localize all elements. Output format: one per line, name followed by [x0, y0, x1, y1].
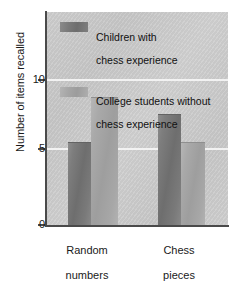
y-tick-label-10: 10: [15, 74, 45, 85]
x-tick-label-chess-pieces-line2: pieces: [140, 269, 218, 282]
bar-college-chess-pieces: [181, 142, 205, 225]
legend-label-college-line1: College students without: [96, 96, 210, 108]
legend-label-college-line2: chess experience: [96, 119, 210, 131]
y-tick-label-5: 5: [15, 143, 45, 154]
y-axis-line: [45, 11, 47, 226]
x-tick-label-random-numbers-line2: numbers: [48, 269, 126, 282]
x-tick-label-chess-pieces-line1: Chess: [140, 244, 218, 257]
bar-children-random-numbers: [68, 142, 91, 225]
legend-label-children: Children with chess experience: [96, 20, 178, 78]
legend-label-children-line1: Children with: [96, 32, 178, 44]
y-tick-label-0: 0: [15, 219, 45, 230]
legend-swatch-children: [60, 22, 88, 32]
legend-swatch-college: [60, 87, 88, 97]
legend: Children with chess experience College s…: [60, 20, 232, 149]
x-axis-line: [45, 225, 229, 227]
legend-label-children-line2: chess experience: [96, 55, 178, 67]
x-tick-label-chess-pieces: Chess pieces: [140, 231, 218, 285]
legend-item-children: Children with chess experience: [60, 20, 232, 78]
x-tick-label-random-numbers: Random numbers: [48, 231, 126, 285]
legend-item-college: College students without chess experienc…: [60, 85, 232, 143]
legend-label-college: College students without chess experienc…: [96, 85, 210, 143]
x-tick-label-random-numbers-line1: Random: [48, 244, 126, 257]
